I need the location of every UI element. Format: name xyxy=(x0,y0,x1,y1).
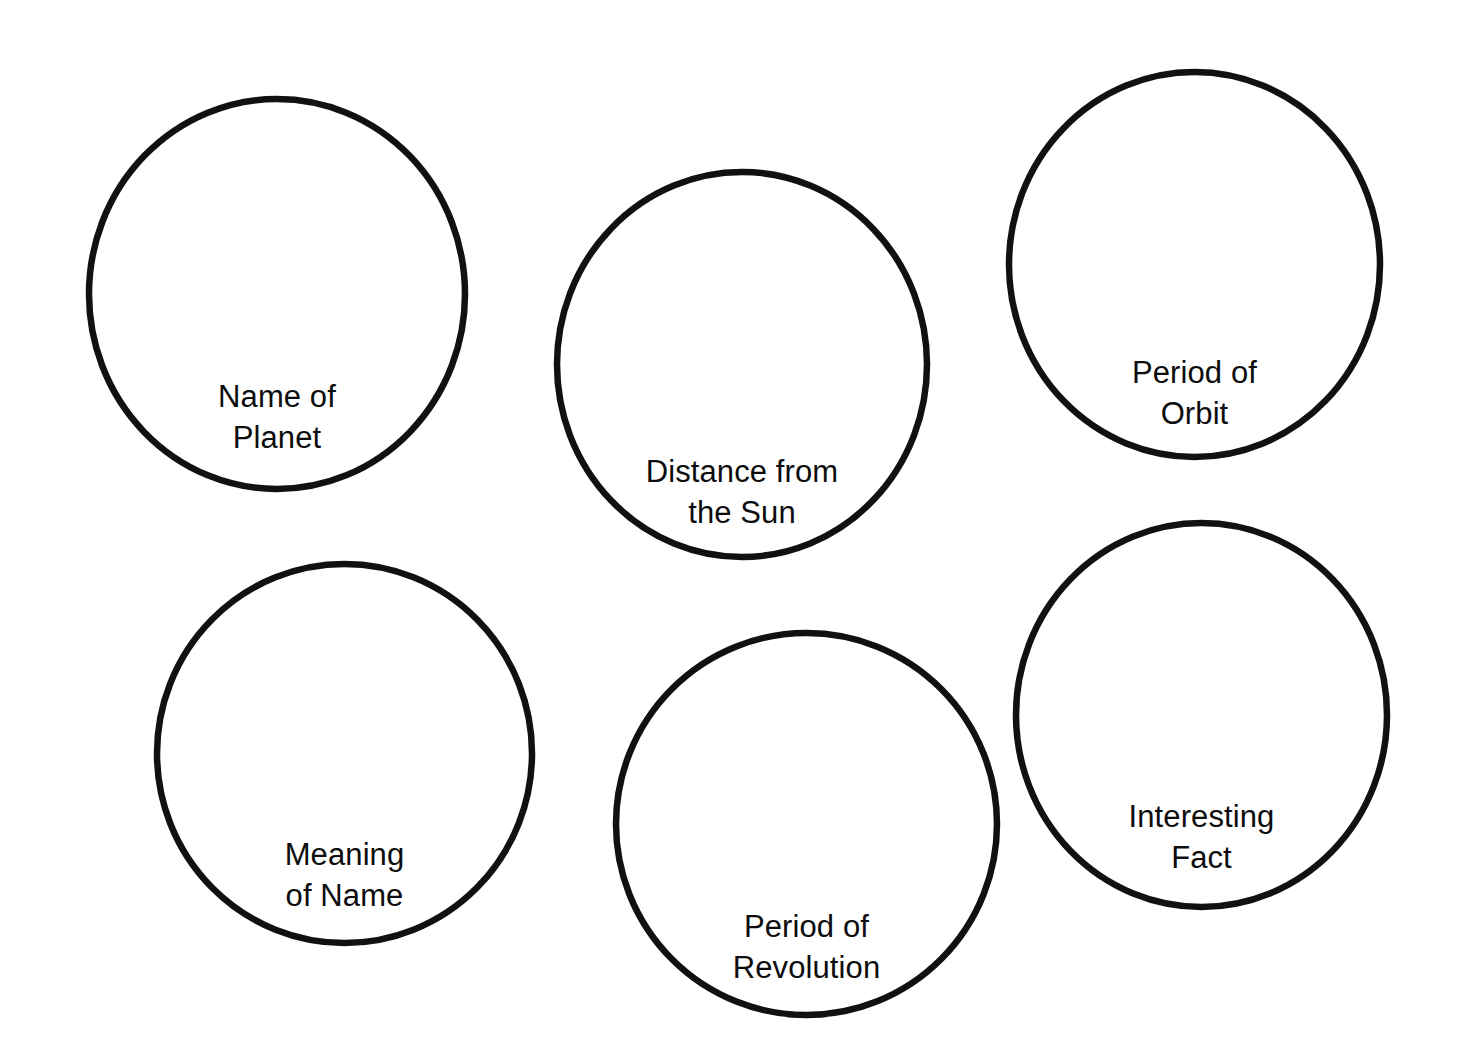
circle-outline-icon xyxy=(612,629,1001,1019)
circle-outline-icon xyxy=(153,560,536,947)
bubble-meaning-of-name[interactable]: Meaning of Name xyxy=(153,560,536,947)
bubble-name-of-planet[interactable]: Name of Planet xyxy=(85,95,469,493)
bubble-period-of-revolution[interactable]: Period of Revolution xyxy=(612,629,1001,1019)
bubble-distance-from-the-sun[interactable]: Distance from the Sun xyxy=(553,168,931,561)
circle-outline-icon xyxy=(553,168,931,561)
circle-outline-icon xyxy=(1012,519,1391,911)
worksheet-canvas: Name of Planet Distance from the Sun Per… xyxy=(0,0,1464,1061)
bubble-period-of-orbit[interactable]: Period of Orbit xyxy=(1005,68,1384,461)
bubble-interesting-fact[interactable]: Interesting Fact xyxy=(1012,519,1391,911)
circle-outline-icon xyxy=(1005,68,1384,461)
circle-outline-icon xyxy=(85,95,469,493)
